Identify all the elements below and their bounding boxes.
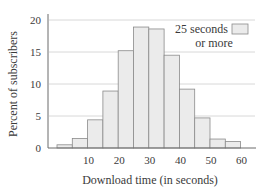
y-tick-label: 5 xyxy=(36,110,42,122)
histogram-bar xyxy=(210,139,225,148)
histogram-chart: 05101520 102030405060 Percent of subscri… xyxy=(0,0,269,194)
x-tick-labels: 102030405060 xyxy=(83,154,248,166)
histogram-bar xyxy=(118,51,133,148)
histogram-bar xyxy=(225,142,240,148)
y-tick-label: 0 xyxy=(36,142,42,154)
histogram-bar xyxy=(134,27,149,148)
x-tick-label: 30 xyxy=(144,154,156,166)
x-tick-label: 10 xyxy=(83,154,95,166)
histogram-bar xyxy=(164,55,179,148)
histogram-bar xyxy=(149,29,164,148)
x-tick-label: 20 xyxy=(114,154,126,166)
histogram-bar xyxy=(72,138,87,148)
y-tick-label: 10 xyxy=(30,78,42,90)
legend-swatch xyxy=(232,24,248,34)
y-axis-label: Percent of subscribers xyxy=(6,31,20,137)
histogram-bar xyxy=(88,120,103,148)
x-tick-label: 40 xyxy=(175,154,187,166)
legend-label-line1: 25 seconds xyxy=(175,22,228,36)
histogram-bar xyxy=(195,118,210,148)
x-tick-label: 50 xyxy=(206,154,218,166)
x-axis-label: Download time (in seconds) xyxy=(82,173,218,187)
y-tick-label: 15 xyxy=(30,46,42,58)
legend-label-line2: or more xyxy=(195,36,233,50)
legend: 25 seconds or more xyxy=(175,22,248,50)
y-tick-labels: 05101520 xyxy=(30,14,42,154)
y-tick-label: 20 xyxy=(30,14,42,26)
x-tick-label: 60 xyxy=(236,154,248,166)
histogram-bar xyxy=(103,91,118,148)
histogram-bar xyxy=(179,89,194,148)
